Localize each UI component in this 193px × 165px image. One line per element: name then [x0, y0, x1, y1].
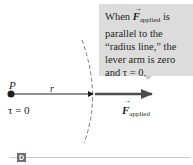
- radius-label: r: [50, 83, 54, 94]
- torque-diagram: When Fapplied is parallel to the “radius…: [0, 0, 193, 165]
- torque-label: τ = 0: [8, 104, 30, 116]
- callout-line-4: lever arm is zero: [105, 53, 193, 66]
- callout-line-3: “radius line,” the: [105, 40, 193, 53]
- panel-divider: [10, 157, 190, 158]
- callout-line-2: parallel to the: [105, 27, 193, 40]
- callout-pointer: [144, 76, 152, 80]
- pivot-label: P: [9, 79, 16, 91]
- panel-badge: D: [17, 153, 26, 162]
- callout-box: When Fapplied is parallel to the “radius…: [99, 4, 193, 76]
- callout-line-1: When Fapplied is: [105, 10, 193, 27]
- rotation-arc-dashed: [82, 40, 93, 143]
- force-vector-symbol: F: [133, 10, 140, 23]
- force-label: Fapplied: [122, 104, 150, 118]
- pivot-point: [8, 91, 15, 98]
